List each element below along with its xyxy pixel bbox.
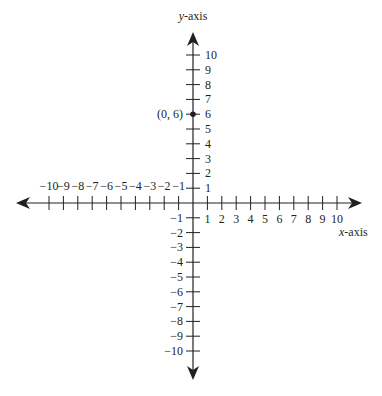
x-tick-label: −4 [129, 179, 142, 193]
x-tick-label: −5 [115, 179, 128, 193]
x-tick-label: −2 [158, 179, 171, 193]
y-axis-label: y-axis [178, 9, 208, 23]
y-tick-label: −6 [170, 285, 183, 299]
x-tick-label: −7 [86, 179, 99, 193]
x-tick-label: 2 [219, 212, 225, 226]
y-tick-label: 2 [205, 166, 211, 180]
y-tick-label: 4 [205, 137, 211, 151]
y-tick-label: −1 [170, 211, 183, 225]
x-tick-label: 8 [305, 212, 311, 226]
y-tick-label: 3 [205, 152, 211, 166]
y-tick-label: −9 [170, 329, 183, 343]
y-tick-label: −3 [170, 240, 183, 254]
y-tick-label: 10 [205, 48, 217, 62]
x-tick-label: 10 [331, 212, 343, 226]
x-tick-label: 3 [233, 212, 239, 226]
x-tick-label: −1 [172, 179, 185, 193]
y-tick-label: 7 [205, 92, 211, 106]
y-tick-label: 6 [205, 107, 211, 121]
x-tick-label: −9 [57, 179, 70, 193]
point-marker [190, 111, 196, 117]
x-tick-label: 7 [291, 212, 297, 226]
y-tick-label: 1 [205, 181, 211, 195]
coordinate-plane: −10−9−8−7−6−5−4−3−2−112345678910−10−9−8−… [0, 0, 382, 396]
point-label: (0, 6) [157, 107, 183, 121]
y-tick-label: −10 [164, 344, 183, 358]
x-tick-label: 5 [262, 212, 268, 226]
x-tick-label: 4 [248, 212, 254, 226]
y-tick-label: 8 [205, 78, 211, 92]
y-tick-label: 5 [205, 122, 211, 136]
x-tick-label: −10 [40, 179, 59, 193]
x-tick-label: −6 [100, 179, 113, 193]
y-tick-label: 9 [205, 63, 211, 77]
y-tick-label: −8 [170, 314, 183, 328]
y-tick-label: −4 [170, 255, 183, 269]
y-tick-label: −2 [170, 226, 183, 240]
x-tick-label: 1 [204, 212, 210, 226]
y-tick-label: −7 [170, 300, 183, 314]
x-tick-label: 9 [320, 212, 326, 226]
x-tick-label: 6 [276, 212, 282, 226]
x-axis-label: x-axis [338, 225, 368, 239]
y-tick-label: −5 [170, 270, 183, 284]
x-tick-label: −3 [143, 179, 156, 193]
x-tick-label: −8 [71, 179, 84, 193]
